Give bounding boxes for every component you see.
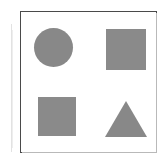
shape-circle	[34, 28, 73, 67]
shape-square-top-right	[106, 29, 146, 70]
scan-artifact-line-secondary	[12, 30, 13, 148]
figure-frame	[20, 11, 157, 153]
figure-root	[0, 0, 163, 160]
shape-square-bottom-left	[38, 97, 76, 136]
shape-canvas	[21, 12, 156, 152]
shape-triangle	[105, 101, 147, 137]
